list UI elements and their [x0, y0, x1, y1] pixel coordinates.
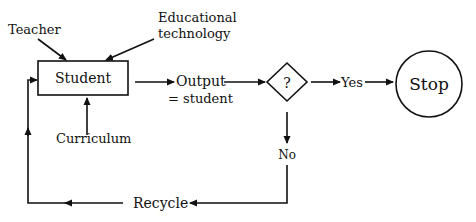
output-label-line2: = student — [168, 91, 234, 106]
decision-node: ? — [267, 63, 307, 101]
decision-label: ? — [283, 75, 291, 91]
edtech-label-line1: Educational — [158, 10, 237, 25]
output-label-line1: Output — [176, 73, 226, 89]
teacher-label: Teacher — [8, 22, 61, 37]
feedback-into-student-arrow — [28, 80, 37, 130]
no-label: No — [278, 148, 296, 162]
stop-label: Stop — [409, 74, 449, 94]
no-to-recycle-arrow — [190, 165, 287, 203]
edtech-label-line2: technology — [158, 26, 231, 41]
recycle-label: Recycle — [133, 195, 188, 211]
student-node: Student — [38, 61, 128, 95]
flow-diagram: Student Teacher Educational technology C… — [0, 0, 476, 222]
teacher-arrow — [38, 39, 66, 60]
yes-label: Yes — [340, 75, 363, 90]
curriculum-label: Curriculum — [56, 131, 131, 146]
student-label: Student — [55, 70, 111, 86]
edtech-arrow — [106, 39, 154, 60]
stop-node: Stop — [396, 51, 462, 117]
